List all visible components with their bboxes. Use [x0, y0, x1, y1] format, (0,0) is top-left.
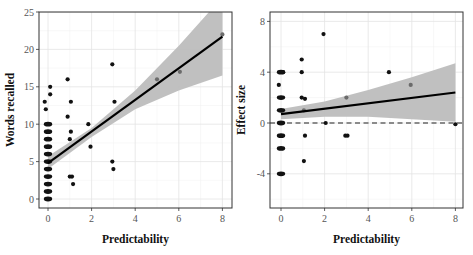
data-point [303, 97, 307, 101]
y-tick-label: 20 [24, 44, 34, 55]
data-point [44, 137, 52, 142]
data-point [44, 107, 48, 111]
data-point [300, 57, 304, 61]
data-point [44, 152, 52, 157]
x-axis-title: Predictability [333, 233, 400, 246]
y-tick-label: 15 [24, 81, 34, 92]
data-point [48, 85, 52, 89]
data-point [110, 160, 114, 164]
panel-effect-size: 02468-4048PredictabilityEffect size [235, 12, 463, 246]
x-tick-label: 4 [366, 213, 371, 224]
data-point [69, 100, 73, 104]
y-tick-label: -4 [257, 168, 265, 179]
data-point [44, 167, 52, 172]
x-axis-title: Predictability [102, 233, 169, 246]
y-axis-title: Effect size [235, 85, 247, 135]
data-point [112, 100, 116, 104]
x-tick-label: 8 [220, 213, 225, 224]
x-tick-label: 0 [279, 213, 284, 224]
data-point [66, 77, 70, 81]
data-point [300, 70, 304, 74]
y-tick-label: 0 [29, 194, 34, 205]
data-point [44, 129, 52, 134]
data-point [44, 174, 52, 179]
y-tick-label: 0 [260, 118, 265, 129]
data-point [43, 100, 47, 104]
data-point [44, 122, 52, 127]
x-tick-label: 2 [322, 213, 327, 224]
data-point [111, 167, 115, 171]
data-point [68, 137, 72, 141]
x-tick-label: 4 [133, 213, 138, 224]
y-tick-label: 8 [260, 16, 265, 27]
data-point [409, 83, 413, 87]
data-point [281, 70, 285, 74]
y-tick-label: 25 [24, 7, 34, 18]
data-point [277, 108, 285, 113]
data-point [345, 134, 349, 138]
plot-area [39, 0, 232, 218]
panel-words-recalled: 024680510152025PredictabilityWords recal… [4, 0, 232, 246]
data-point [44, 189, 52, 194]
data-point [48, 92, 52, 96]
data-point [277, 83, 281, 87]
data-point [302, 159, 306, 163]
data-point [110, 62, 114, 66]
data-point [277, 95, 285, 100]
data-point [88, 145, 92, 149]
data-point [71, 182, 75, 186]
data-point [387, 70, 391, 74]
data-point [277, 121, 285, 126]
data-point [220, 32, 224, 36]
data-point [324, 121, 328, 125]
data-point [277, 171, 285, 176]
x-tick-label: 6 [409, 213, 414, 224]
data-point [321, 32, 325, 36]
y-tick-label: 10 [24, 119, 34, 130]
data-point [44, 197, 52, 202]
data-point [277, 146, 285, 151]
data-point [453, 122, 457, 126]
data-point [66, 115, 70, 119]
data-point [178, 70, 182, 74]
data-point [44, 182, 52, 187]
plot-area [270, 12, 463, 208]
data-point [70, 174, 74, 178]
x-tick-label: 0 [46, 213, 51, 224]
data-point [344, 96, 348, 100]
data-point [69, 130, 73, 134]
data-point [86, 122, 90, 126]
data-point [44, 144, 52, 149]
x-tick-label: 6 [176, 213, 181, 224]
y-tick-label: 4 [260, 67, 265, 78]
data-point [303, 134, 307, 138]
x-tick-label: 8 [453, 213, 458, 224]
x-tick-label: 2 [89, 213, 94, 224]
data-point [277, 133, 285, 138]
y-tick-label: 5 [29, 156, 34, 167]
data-point [155, 77, 159, 81]
y-axis-title: Words recalled [4, 72, 16, 147]
chart-figure: 024680510152025PredictabilityWords recal… [0, 0, 473, 255]
